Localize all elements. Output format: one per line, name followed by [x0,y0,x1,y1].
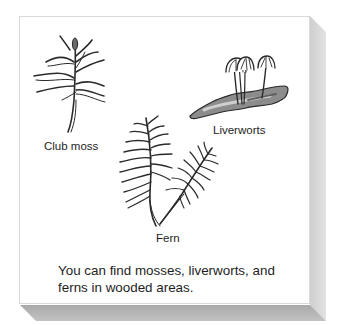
caption-line-2: ferns in wooded areas. [58,279,298,296]
caption-line-1: You can find mosses, liverworts, and [58,262,298,279]
club-moss-icon [34,36,105,132]
figure-caption: You can find mosses, liverworts, and fer… [58,262,298,296]
illustration-figure: Club moss Liverworts Fern You can find m… [0,0,343,325]
fern-icon [120,116,218,226]
liverworts-label: Liverworts [213,124,265,137]
club-moss-label: Club moss [44,140,98,153]
fern-label: Fern [156,232,180,245]
liverwort-icon [190,56,288,119]
